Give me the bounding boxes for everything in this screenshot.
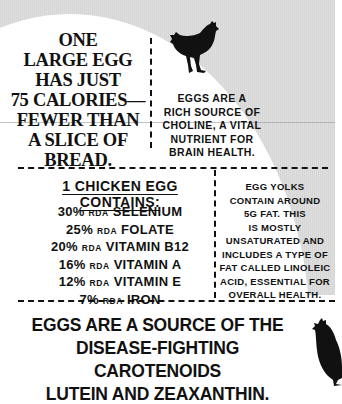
text-line: IS MOSTLY <box>216 221 334 235</box>
nutrient-list: 30% RDA SELENIUM 25% RDA FOLATE 20% RDA … <box>30 204 210 309</box>
nutrient-item: 30% RDA SELENIUM <box>30 204 210 222</box>
percent: 25% <box>66 222 93 237</box>
rda-label: RDA <box>89 208 109 218</box>
text-line: DISEASE-FIGHTING CAROTENOIDS <box>22 336 293 382</box>
text-line: BRAIN HEALTH. <box>152 146 272 160</box>
dashed-divider-horizontal <box>18 300 335 302</box>
calories-fact: ONE LARGE EGG HAS JUST 75 CALORIES— FEWE… <box>8 30 148 170</box>
text-line: EGGS ARE A <box>152 92 272 106</box>
text-line: FEWER THAN <box>8 110 148 130</box>
nutrient-item: 16% RDA VITAMIN A <box>30 257 210 275</box>
carotenoids-fact: EGGS ARE A SOURCE OF THE DISEASE-FIGHTIN… <box>22 313 293 404</box>
text-line: A SLICE OF <box>8 130 148 150</box>
text-line: 75 CALORIES— <box>8 90 148 110</box>
hen-silhouette-icon <box>312 318 342 386</box>
nutrient-name: VITAMIN B12 <box>106 239 189 254</box>
text-line: 5G FAT. THIS <box>216 207 334 221</box>
percent: 20% <box>51 239 78 254</box>
rda-label: RDA <box>82 243 102 253</box>
choline-fact: EGGS ARE A RICH SOURCE OF CHOLINE, A VIT… <box>152 92 272 160</box>
nutrient-name: IRON <box>127 292 161 307</box>
nutrient-name: SELENIUM <box>113 204 183 219</box>
egg-yolks-fact: EGG YOLKS CONTAIN AROUND 5G FAT. THIS IS… <box>216 180 334 302</box>
nutrient-name: FOLATE <box>121 222 174 237</box>
percent: 30% <box>58 204 85 219</box>
percent: 12% <box>59 274 86 289</box>
text-line: LARGE EGG <box>8 50 148 70</box>
text-line: CONTAIN AROUND <box>216 194 334 208</box>
nutrient-item: 12% RDA VITAMIN E <box>30 274 210 292</box>
text-line: EGG YOLKS <box>216 180 334 194</box>
percent: 16% <box>59 257 86 272</box>
text-line: INCLUDES A TYPE OF <box>216 248 334 262</box>
dashed-divider-horizontal <box>18 167 328 169</box>
rda-label: RDA <box>90 261 110 271</box>
text-line: FAT CALLED LINOLEIC <box>216 261 334 275</box>
nutrient-item: 20% RDA VITAMIN B12 <box>30 239 210 257</box>
nutrient-item: 25% RDA FOLATE <box>30 222 210 240</box>
nutrient-name: VITAMIN A <box>114 257 182 272</box>
rda-label: RDA <box>97 226 117 236</box>
nutrient-name: VITAMIN E <box>114 274 181 289</box>
text-line: ONE <box>8 30 148 50</box>
text-line: ACID, ESSENTIAL FOR <box>216 275 334 289</box>
text-line: EGGS ARE A SOURCE OF THE <box>22 313 293 336</box>
text-line: NUTRIENT FOR <box>152 133 272 147</box>
text-line: RICH SOURCE OF <box>152 106 272 120</box>
hen-silhouette-icon <box>170 20 222 82</box>
text-line: CHOLINE, A VITAL <box>152 119 272 133</box>
rda-label: RDA <box>90 278 110 288</box>
text-line: LUTEIN AND ZEAXANTHIN. <box>22 382 293 404</box>
text-line: HAS JUST <box>8 70 148 90</box>
percent: 7% <box>79 292 98 307</box>
text-line: UNSATURATED AND <box>216 234 334 248</box>
